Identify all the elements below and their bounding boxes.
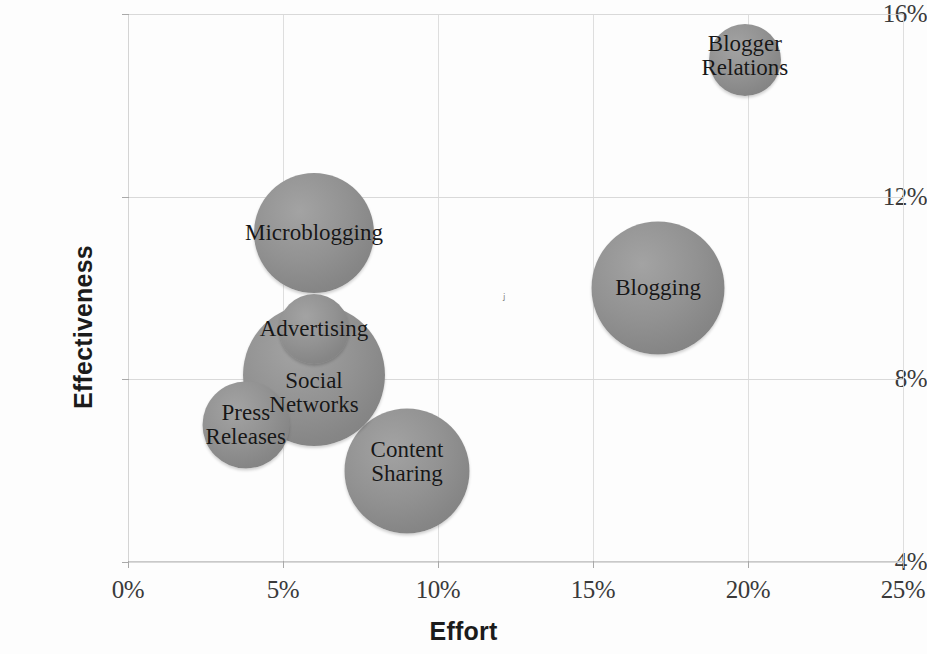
bubble-press-releases[interactable]: [202, 382, 289, 469]
bubble-microblogging[interactable]: [254, 173, 374, 293]
tick-x: [593, 561, 594, 568]
plot-area: MicrobloggingAdvertisingSocial NetworksP…: [128, 14, 903, 562]
x-tick-label: 15%: [571, 576, 615, 604]
gridline-y: [128, 197, 903, 198]
x-tick-label: 10%: [416, 576, 460, 604]
tick-y: [122, 197, 129, 198]
x-tick-label: 5%: [267, 576, 299, 604]
x-tick-label: 25%: [881, 576, 925, 604]
gridline-y: [128, 14, 903, 15]
x-tick-label: 0%: [112, 576, 144, 604]
scan-speck: ⱼ: [503, 286, 505, 303]
tick-x: [748, 561, 749, 568]
tick-y: [122, 14, 129, 15]
gridline-x: [283, 14, 284, 562]
gridline-x: [128, 14, 129, 562]
tick-x: [903, 561, 904, 568]
y-axis-title: Effectiveness: [69, 245, 98, 409]
tick-y: [122, 379, 129, 380]
x-axis-title: Effort: [0, 617, 927, 646]
tick-x: [283, 561, 284, 568]
bubble-advertising[interactable]: [279, 294, 349, 364]
bubble-blogger-relations[interactable]: [709, 24, 781, 96]
bubble-content-sharing[interactable]: [345, 408, 470, 533]
tick-x: [128, 561, 129, 568]
gridline-x: [903, 14, 904, 562]
tick-x: [438, 561, 439, 568]
x-tick-label: 20%: [726, 576, 770, 604]
bubble-chart: Effectiveness Effort 4%8%12%16% 0%5%10%1…: [0, 0, 927, 654]
gridline-x: [748, 14, 749, 562]
gridline-y: [128, 562, 903, 563]
bubble-blogging[interactable]: [592, 222, 725, 355]
